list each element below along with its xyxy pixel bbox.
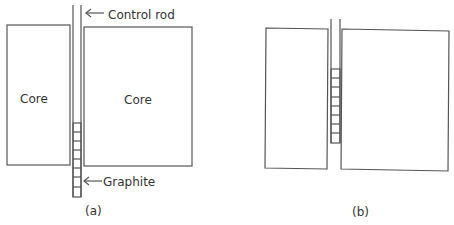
left-core-b (265, 28, 328, 169)
right-core-label: Core (124, 93, 152, 107)
right-core-b (341, 29, 449, 171)
control-rod-a (73, 5, 81, 197)
reactor-control-rod-diagram: Core Core Control rod Graphite (a) (b) (0, 0, 454, 225)
left-core-label: Core (20, 92, 48, 106)
panel-b (265, 19, 449, 171)
control-rod-arrow-icon (86, 9, 104, 17)
graphite-arrow-icon (84, 177, 102, 185)
caption-a: (a) (85, 204, 102, 218)
graphite-label: Graphite (103, 175, 155, 189)
caption-b: (b) (352, 205, 369, 219)
control-rod-label: Control rod (108, 8, 175, 22)
graphite-section-a (73, 123, 81, 197)
panel-a-labels: Core Core Control rod Graphite (a) (20, 8, 175, 218)
control-rod-b (331, 19, 340, 143)
